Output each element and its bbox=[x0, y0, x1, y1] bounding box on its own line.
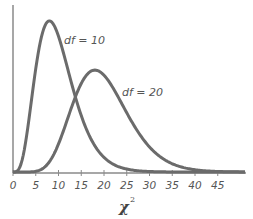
x-axis-label-superscript: 2 bbox=[130, 195, 135, 204]
curve-label-df10: df = 10 bbox=[64, 34, 105, 47]
x-tick-label: 10 bbox=[52, 179, 66, 191]
x-tick-label: 0 bbox=[10, 179, 17, 191]
x-tick-label: 15 bbox=[75, 179, 89, 191]
x-tick-label: 35 bbox=[166, 179, 180, 191]
curve-label-df20: df = 20 bbox=[122, 86, 163, 99]
chi-square-chart: 051015202530354045 df = 10 df = 20 χ 2 bbox=[0, 0, 253, 219]
x-axis-label: χ bbox=[118, 198, 130, 216]
x-tick-label: 5 bbox=[32, 179, 39, 191]
x-tick-label: 20 bbox=[97, 179, 111, 191]
x-tick-label: 40 bbox=[188, 179, 202, 191]
x-tick-label: 25 bbox=[120, 179, 134, 191]
x-tick-label: 45 bbox=[211, 179, 225, 191]
x-tick-label: 30 bbox=[143, 179, 157, 191]
